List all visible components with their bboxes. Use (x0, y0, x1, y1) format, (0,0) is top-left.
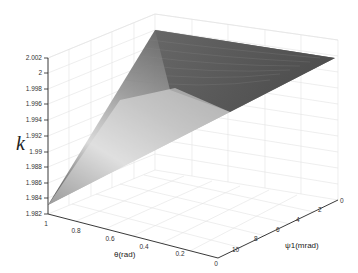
z-tick: 1.998 (26, 85, 43, 92)
y-tick: 8 (254, 235, 258, 242)
z-tick: 2 (38, 69, 42, 76)
surface-plot: 2.002 2 1.998 1.996 1.994 1.992 1.99 1.9… (0, 0, 358, 273)
y-tick: 4 (296, 216, 300, 223)
y-tick: 10 (232, 246, 240, 253)
x-axis-ticks: 1 0.8 0.6 0.4 0.2 0 (44, 220, 218, 267)
y-tick: 0 (340, 197, 344, 204)
z-tick: 1.984 (26, 194, 43, 201)
x-tick: 0.8 (71, 227, 80, 234)
x-tick: 0.6 (105, 235, 114, 242)
x-tick: 0.4 (139, 243, 148, 250)
y-tick: 6 (276, 226, 280, 233)
y-tick: 2 (318, 206, 322, 213)
x-tick: 1 (44, 220, 48, 227)
z-tick: 1.988 (26, 163, 43, 170)
z-tick: 1.99 (29, 148, 42, 155)
y-axis-label: ψ1(mrad) (285, 241, 319, 250)
z-axis-label: k (16, 132, 26, 154)
x-axis-label: θ(rad) (114, 250, 136, 259)
z-tick: 1.986 (26, 179, 43, 186)
z-axis-ticks: 2.002 2 1.998 1.996 1.994 1.992 1.99 1.9… (26, 54, 48, 217)
z-tick: 1.994 (26, 116, 43, 123)
x-tick: 0.2 (175, 250, 184, 257)
z-tick: 1.996 (26, 100, 43, 107)
z-tick: 1.992 (26, 132, 43, 139)
z-tick: 2.002 (26, 54, 43, 61)
z-tick: 1.982 (26, 210, 43, 217)
x-tick: 0 (214, 260, 218, 267)
